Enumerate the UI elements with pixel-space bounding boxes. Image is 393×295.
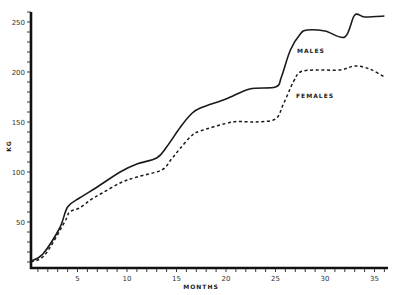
x-axis: 5101520253035 xyxy=(30,268,388,283)
females-series-label: FEMALES xyxy=(296,92,334,99)
males-line xyxy=(31,14,384,261)
x-tick-label: 20 xyxy=(222,275,231,283)
y-axis: 50100150200250 xyxy=(12,12,31,269)
males-series-label: MALES xyxy=(297,47,325,54)
x-tick-label: 35 xyxy=(370,275,379,283)
x-tick-label: 10 xyxy=(123,275,132,283)
y-tick-label: 250 xyxy=(12,19,25,27)
x-tick-label: 5 xyxy=(75,275,79,283)
growth-chart: 50100150200250 5101520253035 KG MONTHS M… xyxy=(0,0,393,295)
x-tick-label: 30 xyxy=(321,275,330,283)
x-tick-label: 25 xyxy=(271,275,280,283)
y-tick-label: 200 xyxy=(12,69,25,77)
x-tick-label: 15 xyxy=(172,275,181,283)
x-axis-title: MONTHS xyxy=(183,283,219,290)
y-tick-label: 100 xyxy=(12,169,25,177)
y-axis-title: KG xyxy=(5,140,12,152)
y-tick-label: 50 xyxy=(16,219,25,227)
y-tick-label: 150 xyxy=(12,119,25,127)
series-layer xyxy=(31,14,384,262)
